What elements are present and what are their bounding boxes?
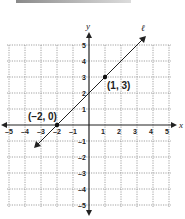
- svg-text:–3: –3: [37, 128, 45, 135]
- svg-text:4: 4: [149, 128, 153, 135]
- svg-text:–1: –1: [69, 128, 77, 135]
- svg-text:4: 4: [82, 58, 86, 65]
- svg-text:–2: –2: [53, 128, 61, 135]
- line-l: [34, 36, 146, 148]
- svg-text:–3: –3: [78, 170, 86, 177]
- line-label: ℓ: [141, 23, 145, 33]
- y-axis-label: y: [85, 21, 90, 31]
- point-neg2-0: [55, 123, 59, 127]
- x-axis-arrow-right-icon: [171, 122, 177, 128]
- svg-text:5: 5: [82, 42, 86, 49]
- svg-text:–4: –4: [21, 128, 29, 135]
- svg-text:3: 3: [133, 128, 137, 135]
- svg-text:–5: –5: [5, 128, 13, 135]
- point-neg2-0-label: (–2, 0): [28, 111, 57, 122]
- x-tick-labels: –5 –4 –3 –2 –1 1 2 3 4 5: [5, 128, 169, 135]
- point-1-3-label: (1, 3): [107, 80, 130, 91]
- x-axis-label: x: [178, 120, 183, 130]
- svg-text:–1: –1: [78, 138, 86, 145]
- axes: [4, 36, 174, 213]
- point-1-3: [103, 75, 107, 79]
- svg-text:–5: –5: [78, 202, 86, 209]
- svg-text:–2: –2: [78, 154, 86, 161]
- svg-text:–4: –4: [78, 186, 86, 193]
- y-axis-arrow-down-icon: [86, 210, 92, 216]
- y-axis-arrow-up-icon: [86, 32, 92, 38]
- svg-text:5: 5: [165, 128, 169, 135]
- svg-text:1: 1: [82, 106, 86, 113]
- svg-text:1: 1: [101, 128, 105, 135]
- svg-text:2: 2: [117, 128, 121, 135]
- svg-text:3: 3: [82, 74, 86, 81]
- coordinate-plane: x y –5 –4 –3 –2 –1 1 2 3 4 5 5 4 3 2 1 –…: [0, 0, 185, 219]
